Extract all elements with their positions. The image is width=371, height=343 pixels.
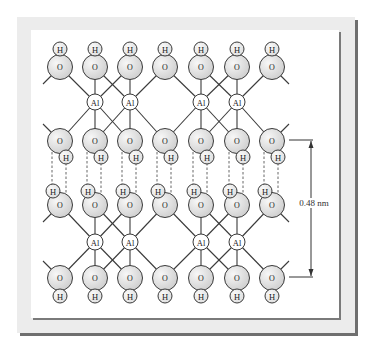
svg-text:O: O: [57, 201, 63, 210]
svg-text:H: H: [92, 292, 98, 302]
svg-text:H: H: [275, 153, 281, 163]
oxygen-atom: O: [118, 129, 143, 154]
hydrogen-atom: H: [271, 150, 285, 164]
svg-text:H: H: [85, 187, 91, 197]
svg-text:Al: Al: [126, 238, 135, 248]
hydrogen-atom: H: [194, 42, 208, 56]
arrow-down-icon: [309, 269, 314, 276]
hydrogen-atom: H: [129, 150, 143, 164]
svg-text:H: H: [227, 187, 233, 197]
hydrogen-atom: H: [236, 150, 250, 164]
svg-text:Al: Al: [91, 238, 100, 248]
aluminum-atom: Al: [193, 234, 209, 250]
hydrogen-atom: H: [194, 289, 208, 303]
oxygen-atom: O: [153, 129, 178, 154]
aluminum-atom: Al: [122, 94, 138, 110]
svg-text:O: O: [198, 137, 204, 146]
svg-text:Al: Al: [233, 238, 242, 248]
hydrogen-atom: H: [158, 289, 172, 303]
svg-text:H: H: [127, 45, 133, 55]
svg-text:O: O: [162, 201, 168, 210]
svg-text:H: H: [162, 292, 168, 302]
hydrogen-atom: H: [258, 184, 272, 198]
svg-text:H: H: [127, 292, 133, 302]
svg-text:H: H: [168, 153, 174, 163]
hydrogen-atom: H: [151, 184, 165, 198]
bonds-layer: [43, 67, 289, 278]
oxygen-atom: O: [83, 55, 108, 80]
hydrogen-atom: H: [53, 289, 67, 303]
svg-text:O: O: [162, 274, 168, 283]
svg-text:O: O: [92, 63, 98, 72]
svg-text:O: O: [234, 201, 240, 210]
oxygen-atom: O: [153, 55, 178, 80]
svg-text:O: O: [127, 137, 133, 146]
hydrogen-atom: H: [230, 289, 244, 303]
svg-text:Al: Al: [197, 238, 206, 248]
oxygen-atom: O: [260, 129, 285, 154]
hydrogen-atom: H: [230, 42, 244, 56]
hydrogen-atom: H: [187, 184, 201, 198]
atoms-layer: OHOHOHOHOHOHOHOHOHOHOHOHOHOHOHOHOHOHOHOH…: [46, 42, 285, 303]
aluminum-atom: Al: [229, 94, 245, 110]
oxygen-atom: O: [260, 266, 285, 291]
hydrogen-atom: H: [53, 42, 67, 56]
svg-text:H: H: [240, 153, 246, 163]
svg-text:Al: Al: [126, 98, 135, 108]
oxygen-atom: O: [225, 55, 250, 80]
aluminum-atom: Al: [87, 94, 103, 110]
svg-text:O: O: [234, 63, 240, 72]
oxygen-atom: O: [118, 55, 143, 80]
svg-text:H: H: [234, 292, 240, 302]
hydrogen-atom: H: [265, 289, 279, 303]
oxygen-atom: O: [260, 55, 285, 80]
svg-text:Al: Al: [197, 98, 206, 108]
svg-text:H: H: [98, 153, 104, 163]
oxygen-atom: O: [153, 266, 178, 291]
hydrogen-atom: H: [164, 150, 178, 164]
svg-text:H: H: [262, 187, 268, 197]
dimension-label: 0.48 nm: [296, 198, 332, 208]
svg-text:O: O: [269, 137, 275, 146]
svg-text:H: H: [198, 45, 204, 55]
svg-text:Al: Al: [91, 98, 100, 108]
svg-text:O: O: [234, 137, 240, 146]
hydrogen-atom: H: [158, 42, 172, 56]
hydrogen-atom: H: [123, 289, 137, 303]
svg-text:O: O: [269, 274, 275, 283]
hydrogen-atom: H: [46, 184, 60, 198]
svg-text:H: H: [63, 153, 69, 163]
hydrogen-atom: H: [88, 289, 102, 303]
arrow-up-icon: [309, 141, 314, 148]
svg-text:H: H: [269, 45, 275, 55]
svg-text:O: O: [198, 201, 204, 210]
svg-text:O: O: [127, 274, 133, 283]
svg-text:O: O: [162, 63, 168, 72]
oxygen-atom: O: [48, 266, 73, 291]
layer-structure-diagram: OHOHOHOHOHOHOHOHOHOHOHOHOHOHOHOHOHOHOHOH…: [0, 0, 371, 343]
svg-text:Al: Al: [233, 98, 242, 108]
aluminum-atom: Al: [87, 234, 103, 250]
svg-text:H: H: [92, 45, 98, 55]
hydrogen-atom: H: [265, 42, 279, 56]
hydrogen-atom: H: [123, 42, 137, 56]
svg-text:H: H: [234, 45, 240, 55]
hydrogen-atom: H: [88, 42, 102, 56]
aluminum-atom: Al: [122, 234, 138, 250]
svg-text:H: H: [50, 187, 56, 197]
aluminum-atom: Al: [229, 234, 245, 250]
svg-text:H: H: [162, 45, 168, 55]
svg-text:H: H: [155, 187, 161, 197]
svg-text:H: H: [57, 292, 63, 302]
svg-text:O: O: [57, 137, 63, 146]
svg-text:H: H: [191, 187, 197, 197]
svg-text:O: O: [269, 201, 275, 210]
svg-text:O: O: [198, 274, 204, 283]
oxygen-atom: O: [83, 129, 108, 154]
hydrogen-atom: H: [223, 184, 237, 198]
hydrogen-atom: H: [94, 150, 108, 164]
oxygen-atom: O: [189, 266, 214, 291]
oxygen-atom: O: [48, 129, 73, 154]
svg-text:H: H: [204, 153, 210, 163]
svg-text:O: O: [127, 63, 133, 72]
